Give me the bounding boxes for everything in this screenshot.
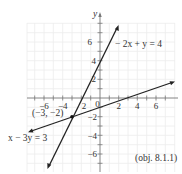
line2-equation-label: x − 3y = 3 — [8, 133, 47, 143]
y-tick-label: 2 — [92, 74, 97, 84]
y-tick-label: 6 — [88, 37, 93, 47]
arrow-icon — [170, 81, 176, 85]
x-tick-label: 2 — [116, 101, 121, 111]
y-axis-arrow-icon — [98, 12, 101, 17]
origin-label: 0 — [95, 99, 100, 109]
x-tick-label: 4 — [135, 101, 140, 111]
x-tick-label: 2 — [82, 101, 87, 111]
line1-equation-label: − 2x + y = 4 — [115, 39, 162, 49]
x-tick-label: 6 — [154, 101, 159, 111]
intersection-point — [70, 115, 74, 119]
y-tick-label: 4 — [92, 56, 97, 66]
coordinate-plane: y 6 4 2 −2 −4 −6 −6 −4 2 0 2 4 6 − 2x + … — [0, 0, 182, 174]
y-tick-label: −6 — [87, 149, 97, 159]
objective-label: (obj. 8.1.1) — [135, 153, 177, 164]
y-tick-label: −4 — [87, 131, 97, 141]
line-neg2x-plus-y-eq-4 — [47, 25, 119, 169]
y-tick-label: −2 — [87, 112, 97, 122]
arrow-icon — [28, 128, 34, 132]
intersection-point-label: (−3, −2) — [32, 108, 63, 119]
y-axis-label: y — [92, 9, 98, 19]
axes — [27, 12, 178, 172]
